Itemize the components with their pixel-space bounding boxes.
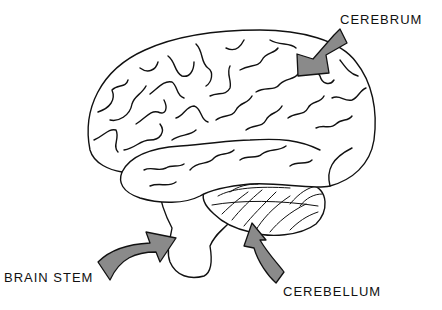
label-cerebellum: CEREBELLUM [283,284,381,299]
brain-illustration [0,0,442,310]
cerebrum [88,30,375,202]
brain-diagram: CEREBRUM BRAIN STEM CEREBELLUM [0,0,442,310]
label-cerebrum: CEREBRUM [340,12,422,27]
brain-stem-arrow [98,232,176,280]
label-brain-stem: BRAIN STEM [4,270,93,285]
